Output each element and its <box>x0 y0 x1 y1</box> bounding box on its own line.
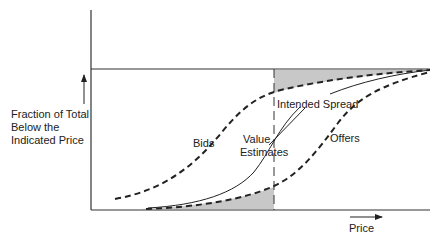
value-estimates-curve <box>148 70 430 208</box>
x-axis-label: Price <box>349 222 374 234</box>
bids-label: Bids <box>193 137 215 149</box>
spread-label: Intended Spread <box>277 98 358 110</box>
bids-curve <box>115 70 430 199</box>
y-axis-label-line1: Fraction of Total <box>11 108 89 121</box>
offers-curve <box>146 72 430 209</box>
offers-label: Offers <box>330 132 360 144</box>
value-label-line2: Estimates <box>240 146 289 158</box>
y-axis-label: Fraction of Total Below the Indicated Pr… <box>11 108 89 147</box>
y-axis-label-line3: Indicated Price <box>11 134 89 147</box>
shaded-region-lower <box>140 187 274 209</box>
value-label-line1: Value <box>243 133 270 145</box>
y-axis-label-line2: Below the <box>11 121 89 134</box>
